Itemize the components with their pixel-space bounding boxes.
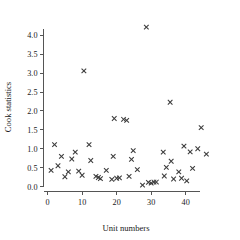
y-tick-label: 3.0 (27, 69, 37, 78)
y-tick-label: 0.0 (27, 183, 37, 192)
y-tick-label: 1.0 (27, 145, 37, 154)
data-point-marker (168, 100, 173, 105)
data-point-marker (69, 157, 74, 162)
data-point-marker (184, 179, 189, 184)
y-tick-label: 3.5 (27, 50, 37, 59)
data-point-marker (161, 150, 166, 155)
x-tick-label: 0 (46, 198, 50, 207)
data-point-marker (59, 154, 64, 159)
y-tick-label: 2.5 (27, 88, 37, 97)
y-axis: 0.00.51.01.52.02.53.03.54.0 (27, 29, 43, 191)
data-point-marker (135, 167, 140, 172)
cook-statistics-scatter-figure: 0.00.51.01.52.02.53.03.54.0 010203040 Un… (0, 0, 240, 240)
y-tick-label: 0.5 (27, 164, 37, 173)
x-tick-label: 20 (113, 198, 121, 207)
data-point-marker (199, 125, 204, 130)
data-point-marker (52, 142, 57, 147)
data-point-marker (169, 159, 174, 164)
data-point-marker (49, 168, 54, 173)
data-point-marker (190, 166, 195, 171)
data-point-marker (171, 177, 176, 182)
data-point-marker (140, 183, 145, 188)
x-axis: 010203040 (44, 192, 200, 207)
data-point-marker (110, 177, 115, 182)
data-point-marker (87, 142, 92, 147)
x-axis-title: Unit numbers (102, 223, 150, 233)
x-tick-label: 10 (78, 198, 86, 207)
data-point-marker (176, 170, 181, 175)
y-tick-label: 1.5 (27, 126, 37, 135)
data-point-marker (73, 150, 78, 155)
y-axis-title: Cook statistics (3, 81, 13, 132)
data-point-marker (162, 174, 167, 179)
data-point-marker (195, 146, 200, 151)
data-point-marker (188, 150, 193, 155)
data-point-marker (129, 157, 134, 162)
data-point-marker (144, 25, 149, 30)
x-tick-label: 30 (147, 198, 155, 207)
data-point-marker (80, 173, 85, 178)
data-point-marker (88, 158, 93, 163)
data-point-marker (204, 152, 209, 157)
data-point-marker (66, 170, 71, 175)
data-point-marker (117, 176, 122, 181)
data-point-marker (112, 116, 117, 121)
data-point-marker (179, 176, 184, 181)
data-point-marker (56, 163, 61, 168)
y-tick-label: 4.0 (27, 31, 37, 40)
data-point-marker (182, 144, 187, 149)
data-point-marker (104, 168, 109, 173)
data-point-marker (164, 165, 169, 170)
data-point-marker (82, 69, 87, 74)
y-tick-label: 2.0 (27, 107, 37, 116)
scatter-plot-canvas: 0.00.51.01.52.02.53.03.54.0 010203040 Un… (0, 0, 240, 240)
data-point-marker (127, 174, 132, 179)
data-point-markers (49, 25, 209, 188)
data-point-marker (111, 154, 116, 159)
x-tick-label: 40 (182, 198, 190, 207)
data-point-marker (63, 174, 68, 179)
data-point-marker (154, 180, 159, 185)
data-point-marker (131, 148, 136, 153)
